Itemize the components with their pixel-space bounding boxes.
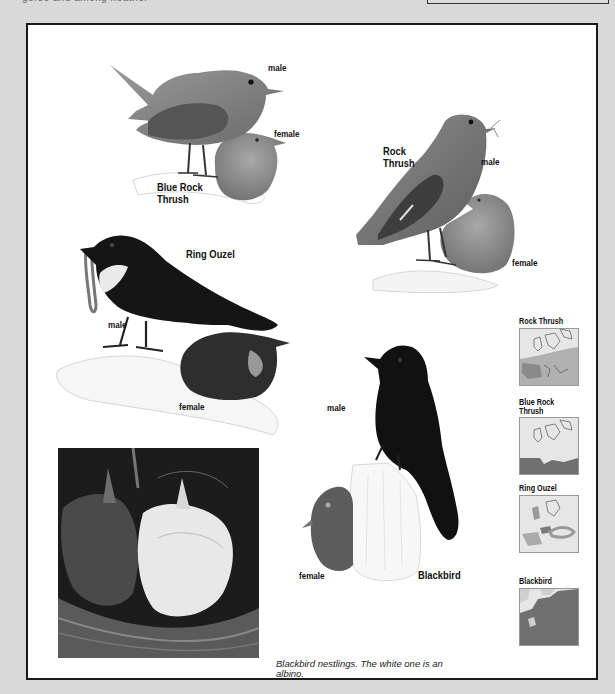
ring-ouzel-illustration bbox=[57, 235, 290, 435]
range-map-title: Rock Thrush bbox=[519, 317, 570, 326]
blackbird-female-label: female bbox=[299, 571, 325, 581]
map-graphic bbox=[520, 496, 578, 552]
map-graphic bbox=[520, 329, 578, 385]
ring-ouzel-female-label: female bbox=[179, 402, 205, 412]
rock-thrush-name: Rock Thrush bbox=[383, 146, 415, 169]
blackbird-illustration bbox=[302, 346, 459, 581]
rock-thrush-illustration bbox=[356, 114, 515, 292]
blackbird-name: Blackbird bbox=[418, 570, 461, 582]
range-map-ring-ouzel: Ring Ouzel bbox=[519, 484, 579, 553]
range-map-blue-rock-thrush: Blue Rock Thrush bbox=[519, 398, 579, 475]
ring-ouzel-name: Ring Ouzel bbox=[186, 249, 235, 261]
rock-thrush-male-label: male bbox=[481, 157, 499, 167]
range-map-blackbird: Blackbird bbox=[519, 577, 579, 646]
range-map-title: Blue Rock Thrush bbox=[519, 398, 570, 415]
nest-photo-graphic bbox=[58, 448, 259, 658]
blackbird-nestlings-photo bbox=[58, 448, 259, 658]
range-map-rock-thrush: Rock Thrush bbox=[519, 317, 579, 386]
rock-thrush-female-label: female bbox=[512, 258, 538, 268]
blue-rock-thrush-male-label: male bbox=[268, 63, 286, 73]
page-frame: male female Blue Rock Thrush Rock Thrush… bbox=[26, 23, 598, 680]
previous-page-box-edge bbox=[427, 0, 609, 4]
photo-caption: Blackbird nestlings. The white one is an… bbox=[276, 659, 466, 680]
blue-rock-thrush-female-label: female bbox=[274, 129, 300, 139]
map-graphic bbox=[520, 589, 578, 645]
blue-rock-thrush-name: Blue Rock Thrush bbox=[157, 182, 203, 205]
europe-map bbox=[519, 588, 579, 646]
europe-map bbox=[519, 417, 579, 475]
europe-map bbox=[519, 328, 579, 386]
range-map-title: Ring Ouzel bbox=[519, 484, 570, 493]
europe-map bbox=[519, 495, 579, 553]
blackbird-male-label: male bbox=[327, 403, 345, 413]
ring-ouzel-male-label: male bbox=[108, 320, 126, 330]
top-strip-text: gorse and among heather bbox=[22, 0, 148, 3]
map-graphic bbox=[520, 418, 578, 474]
range-map-title: Blackbird bbox=[519, 577, 570, 586]
